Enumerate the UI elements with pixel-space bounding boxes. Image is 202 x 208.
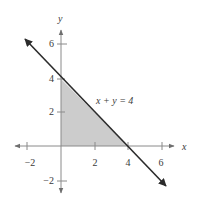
x-axis-label: x bbox=[181, 141, 187, 152]
coordinate-plane: −2 2 4 6 6 4 2 −2 x y x + y = 4 bbox=[0, 0, 202, 208]
x-tick-label: 6 bbox=[159, 157, 164, 168]
y-tick-label: 2 bbox=[49, 106, 54, 117]
y-axis-label: y bbox=[57, 13, 63, 24]
graph-figure: −2 2 4 6 6 4 2 −2 x y x + y = 4 bbox=[0, 0, 202, 208]
y-tick-label: 4 bbox=[49, 73, 54, 84]
equation-label: x + y = 4 bbox=[95, 95, 133, 106]
y-tick-label: 6 bbox=[49, 38, 54, 49]
x-tick-label: 2 bbox=[93, 157, 98, 168]
y-tick-label: −2 bbox=[43, 175, 54, 186]
x-tick-label: 4 bbox=[126, 157, 131, 168]
x-tick-label: −2 bbox=[25, 157, 36, 168]
